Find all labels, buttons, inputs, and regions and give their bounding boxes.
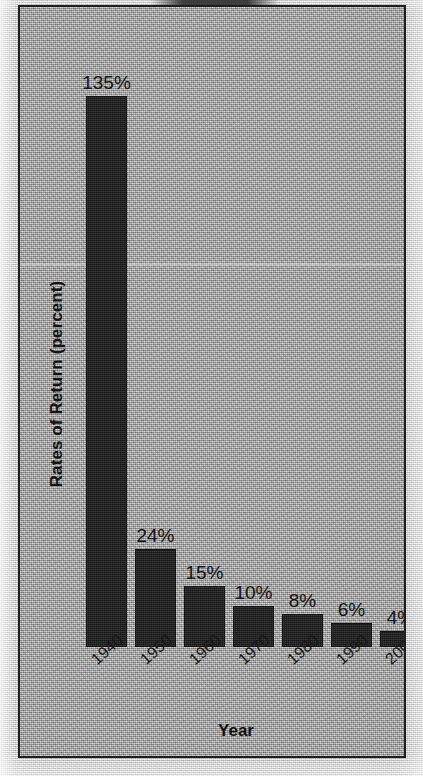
bar-2000: 4% bbox=[380, 43, 406, 647]
bar-value-label-1960: 15% bbox=[185, 563, 223, 582]
bar-value-label-1980: 8% bbox=[289, 591, 316, 610]
bar-rect-1940 bbox=[86, 96, 127, 647]
bar-1960: 15% bbox=[184, 43, 225, 647]
bar-value-label-1950: 24% bbox=[136, 526, 174, 545]
chart-frame: Rates of Return (percent) 135%24%15%10%8… bbox=[18, 5, 406, 758]
scanned-chart-page: Rates of Return (percent) 135%24%15%10%8… bbox=[0, 0, 423, 776]
bar-rect-1950 bbox=[135, 549, 176, 647]
bar-value-label-1940: 135% bbox=[82, 73, 131, 92]
bar-value-label-2000: 4% bbox=[387, 608, 406, 627]
bar-value-label-1990: 6% bbox=[338, 600, 365, 619]
bar-1990: 6% bbox=[331, 43, 372, 647]
y-axis-title-label: Rates of Return (percent) bbox=[47, 280, 67, 487]
bar-value-label-1970: 10% bbox=[234, 583, 272, 602]
x-axis-title: Year bbox=[66, 721, 406, 741]
bar-1980: 8% bbox=[282, 43, 323, 647]
bar-1950: 24% bbox=[135, 43, 176, 647]
plot-area: 135%24%15%10%8%6%4% bbox=[66, 43, 406, 647]
x-axis-tick-labels: 1940195019601970198019902000 bbox=[66, 651, 406, 711]
bar-1970: 10% bbox=[233, 43, 274, 647]
bar-1940: 135% bbox=[86, 43, 127, 647]
